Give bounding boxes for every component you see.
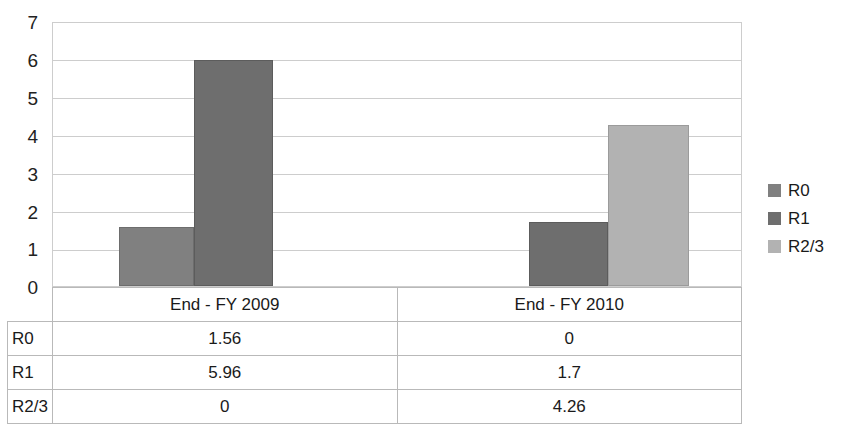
y-tick-label: 6	[0, 51, 38, 70]
bar-r1-fy2010	[529, 222, 608, 286]
y-tick-label: 2	[0, 203, 38, 222]
bar-r0-fy2009	[119, 227, 194, 286]
legend-label: R0	[788, 182, 810, 199]
y-tick-label: 5	[0, 89, 38, 108]
table-header-fy2010: End - FY 2010	[397, 288, 742, 322]
table-corner-cell	[8, 288, 53, 322]
legend-swatch-icon	[768, 184, 781, 197]
bar-r23-fy2010	[608, 125, 689, 286]
y-tick-label: 7	[0, 13, 38, 32]
chart-figure: 7 6 5 4 3 2 1 0 R0 R1	[0, 0, 852, 437]
table-row-label-r0: R0	[8, 322, 53, 356]
table-row: R1 5.96 1.7	[8, 356, 742, 390]
table-cell-r23-fy2009: 0	[53, 390, 398, 424]
table-cell-r0-fy2009: 1.56	[53, 322, 398, 356]
table-cell-r1-fy2010: 1.7	[397, 356, 742, 390]
legend-item-r1: R1	[768, 204, 852, 232]
table-row-label-r23: R2/3	[8, 390, 53, 424]
table-header-row: End - FY 2009 End - FY 2010	[8, 288, 742, 322]
y-tick-label: 3	[0, 165, 38, 184]
table-cell-r1-fy2009: 5.96	[53, 356, 398, 390]
table-header-fy2009: End - FY 2009	[53, 288, 398, 322]
y-tick-label: 4	[0, 127, 38, 146]
y-tick-label: 1	[0, 240, 38, 259]
table-cell-r0-fy2010: 0	[397, 322, 742, 356]
legend-item-r0: R0	[768, 176, 852, 204]
legend-item-r23: R2/3	[768, 232, 852, 260]
table-row: R0 1.56 0	[8, 322, 742, 356]
table-row: R2/3 0 4.26	[8, 390, 742, 424]
legend-swatch-icon	[768, 212, 781, 225]
legend-label: R2/3	[788, 238, 824, 255]
legend-swatch-icon	[768, 240, 781, 253]
bar-r1-fy2009	[194, 60, 273, 286]
y-axis: 7 6 5 4 3 2 1 0	[0, 0, 46, 300]
data-table: End - FY 2009 End - FY 2010 R0 1.56 0 R1…	[7, 287, 742, 424]
legend-label: R1	[788, 210, 810, 227]
bar-series-container	[53, 23, 741, 286]
table-cell-r23-fy2010: 4.26	[397, 390, 742, 424]
table-row-label-r1: R1	[8, 356, 53, 390]
plot-area	[52, 22, 742, 287]
legend: R0 R1 R2/3	[768, 176, 852, 260]
